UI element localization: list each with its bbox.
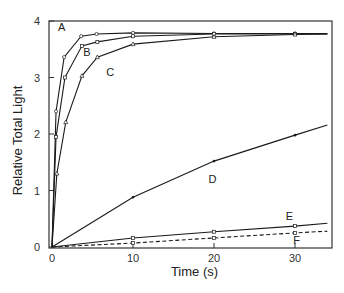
series-e: [52, 223, 327, 247]
plot-area: 012340102030Time (s)Relative Total Light…: [10, 15, 332, 279]
marker: [55, 171, 59, 175]
x-tick-label: 30: [289, 252, 301, 264]
marker: [213, 236, 216, 239]
marker: [96, 40, 99, 43]
marker: [132, 242, 135, 245]
marker: [213, 230, 216, 233]
marker: [131, 31, 134, 34]
series-d: [52, 125, 327, 247]
x-tick-label: 20: [208, 252, 220, 264]
marker: [213, 160, 216, 163]
chart: 012340102030Time (s)Relative Total Light…: [0, 0, 344, 293]
curve-label-c: C: [106, 66, 114, 78]
y-tick-label: 2: [34, 128, 40, 140]
marker: [80, 35, 83, 38]
marker: [63, 56, 66, 59]
y-tick-label: 1: [34, 185, 40, 197]
marker: [132, 35, 135, 38]
marker: [55, 135, 58, 138]
marker: [294, 134, 297, 137]
curve-label-a: A: [58, 21, 66, 33]
marker: [294, 225, 297, 228]
marker: [54, 110, 57, 113]
marker: [132, 236, 135, 239]
y-tick-label: 3: [34, 72, 40, 84]
x-tick-label: 0: [49, 252, 55, 264]
x-tick-label: 10: [127, 252, 139, 264]
marker: [63, 76, 66, 79]
y-tick-label: 4: [34, 15, 40, 27]
marker: [132, 196, 135, 199]
marker: [64, 120, 68, 124]
curve-label-e: E: [286, 210, 293, 222]
y-axis-title: Relative Total Light: [10, 85, 25, 195]
y-tick-label: 0: [34, 241, 40, 253]
marker: [95, 32, 98, 35]
x-axis-title: Time (s): [171, 264, 218, 279]
curve-label-f: F: [293, 234, 300, 246]
curve-label-d: D: [208, 173, 216, 185]
curve-label-b: B: [83, 46, 90, 58]
